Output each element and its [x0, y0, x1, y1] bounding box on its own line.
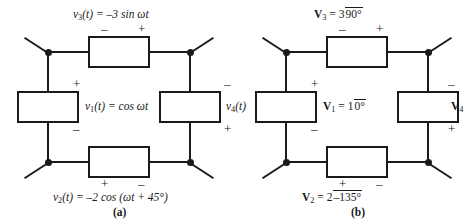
node-top-left-a — [45, 49, 52, 56]
label-v1-rest: (t) = cos ωt — [94, 100, 148, 112]
figure-container: – + + – – + + – v3(t) = –3 sin ωt v1(t) … — [0, 0, 476, 223]
element-box-v2 — [88, 146, 150, 178]
angle-symbol-V1: 0° — [353, 100, 365, 113]
polarity-v2-plus: + — [101, 177, 108, 190]
node-bottom-left-a — [45, 159, 52, 166]
node-bottom-right-b — [425, 159, 432, 166]
element-box-v4 — [159, 91, 221, 123]
polarity-v1-minus: – — [73, 122, 80, 135]
polarity-V3-minus: – — [339, 22, 346, 35]
polarity-v4-minus: – — [224, 77, 231, 90]
label-v3: v3(t) = –3 sin ωt — [73, 8, 149, 22]
node-bottom-left-b — [283, 159, 290, 166]
label-v3-rest: (t) = –3 sin ωt — [82, 8, 148, 20]
polarity-V2-minus: – — [376, 177, 383, 190]
label-v2: v2(t) = –2 cos (ωt + 45°) — [53, 191, 168, 205]
element-box-V4 — [397, 91, 459, 123]
label-V4: V4 — [451, 100, 463, 114]
polarity-V4-plus: + — [448, 122, 455, 135]
polarity-v1-plus: + — [73, 77, 80, 90]
element-box-v3 — [88, 36, 150, 68]
polarity-V3-plus: + — [376, 22, 383, 35]
label-V2-eq: = 2 — [314, 191, 332, 203]
panel-b-phasor-domain: – + + – – + + – V3 = 3 90° V1 = 1 0° V4 … — [238, 0, 476, 223]
angle-symbol-V2: –135° — [332, 191, 362, 204]
angle-symbol-V3: 90° — [344, 8, 362, 21]
label-V1: V1 = 1 0° — [323, 100, 366, 114]
polarity-v3-plus: + — [138, 22, 145, 35]
caption-panel-b: (b) — [351, 206, 365, 218]
label-V4-sub: 4 — [459, 105, 463, 114]
label-V3-eq: = 3 — [326, 8, 344, 20]
element-box-V2 — [326, 146, 388, 178]
label-v2-rest: (t) = –2 cos (ωt + 45°) — [62, 191, 168, 203]
panel-a-time-domain: – + + – – + + – v3(t) = –3 sin ωt v1(t) … — [0, 0, 238, 223]
polarity-v2-minus: – — [138, 177, 145, 190]
node-top-right-b — [425, 49, 432, 56]
element-box-V3 — [326, 36, 388, 68]
element-box-v1 — [17, 91, 79, 123]
label-V3-angle: 90° — [345, 7, 362, 20]
label-V2: V2 = 2 –135° — [302, 191, 362, 205]
polarity-v3-minus: – — [101, 22, 108, 35]
caption-panel-a: (a) — [113, 206, 126, 218]
label-V1-eq: = 1 — [335, 100, 353, 112]
polarity-V4-minus: – — [448, 77, 455, 90]
node-top-right-a — [187, 49, 194, 56]
label-V3: V3 = 3 90° — [314, 8, 363, 22]
polarity-v4-plus: + — [224, 122, 231, 135]
polarity-V1-minus: – — [311, 122, 318, 135]
element-box-V1 — [255, 91, 317, 123]
node-top-left-b — [283, 49, 290, 56]
label-V1-angle: 0° — [354, 99, 365, 112]
label-v1: v1(t) = cos ωt — [85, 100, 148, 114]
label-V2-angle: –135° — [333, 190, 362, 203]
polarity-V2-plus: + — [339, 177, 346, 190]
polarity-V1-plus: + — [311, 77, 318, 90]
node-bottom-right-a — [187, 159, 194, 166]
